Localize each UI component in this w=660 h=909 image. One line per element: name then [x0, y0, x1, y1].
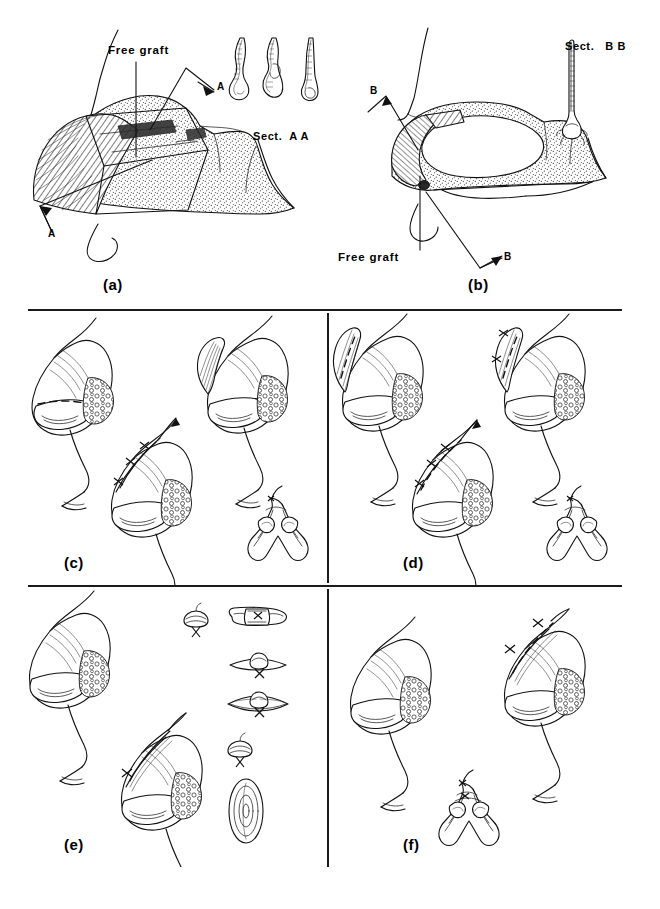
panel-label-b: (b) — [468, 277, 489, 292]
panel-b: Sect. B B B Free graft B (b) — [330, 0, 660, 309]
nose-base-c — [248, 486, 308, 561]
detail-bolster-1 — [229, 607, 286, 625]
nose-e1 — [30, 591, 111, 785]
divider-col-lower — [327, 589, 329, 867]
panel-a: Free graft A A Sect. A A (a) — [0, 0, 330, 309]
section-bb-label: Sect. B B — [565, 41, 626, 52]
panel-label-e: (e) — [64, 837, 84, 852]
section-arrow-letter-b-lower: B — [504, 252, 511, 262]
nose-d3 — [413, 420, 494, 585]
panel-e-artwork — [28, 589, 327, 867]
panel-c: (c) — [28, 312, 327, 585]
section-bb-strip — [554, 38, 604, 148]
nose-c1 — [32, 318, 114, 510]
panel-f: (f) — [331, 589, 622, 867]
divider-middle — [28, 585, 622, 587]
panel-e: (e) — [28, 589, 327, 867]
surgical-figure: Free graft A A Sect. A A (a) — [0, 0, 660, 909]
divider-col-upper — [327, 313, 329, 583]
panel-label-a: (a) — [103, 277, 123, 292]
nose-d2 — [492, 314, 585, 506]
nose-c2 — [197, 316, 288, 508]
panel-d-artwork — [331, 312, 622, 585]
detail-oval-graft — [229, 779, 263, 843]
detail-knot-bottom — [228, 733, 252, 767]
panel-label-f: (f) — [403, 837, 420, 852]
nose-c3 — [112, 418, 193, 585]
nose-e2 — [122, 713, 203, 867]
section-arrow-letter-a-lower: A — [48, 229, 55, 239]
section-aa-strips — [224, 36, 330, 106]
nose-base-d — [547, 486, 607, 561]
nose-f2 — [505, 609, 586, 803]
panel-label-d: (d) — [403, 555, 424, 570]
free-graft-label-a: Free graft — [108, 45, 169, 57]
detail-bolster-2 — [230, 653, 286, 678]
panel-d: (d) — [331, 312, 622, 585]
section-aa-label: Sect. A A — [253, 131, 309, 142]
section-arrow-letter-a-upper: A — [217, 82, 224, 92]
detail-knot-top — [184, 603, 208, 637]
panel-label-c: (c) — [64, 555, 84, 570]
nose-f1 — [351, 617, 432, 811]
divider-top — [28, 309, 622, 311]
detail-bolster-3 — [228, 692, 288, 717]
nose-d1 — [333, 314, 423, 506]
free-graft-label-b: Free graft — [338, 252, 399, 264]
section-arrow-letter-b-upper: B — [370, 86, 377, 96]
panel-f-artwork — [331, 589, 622, 867]
nose-base-f — [439, 770, 499, 846]
panel-c-artwork — [28, 312, 327, 585]
